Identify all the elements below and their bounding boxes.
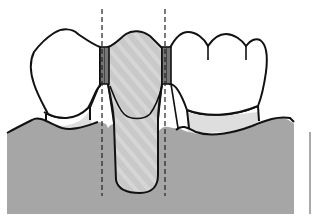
- right-connector-leg: [158, 84, 178, 128]
- pontic: [108, 31, 162, 193]
- right-abutment-crown: [170, 32, 267, 115]
- left-abutment-crown: [31, 29, 100, 118]
- dental-bridge-diagram: [0, 0, 312, 219]
